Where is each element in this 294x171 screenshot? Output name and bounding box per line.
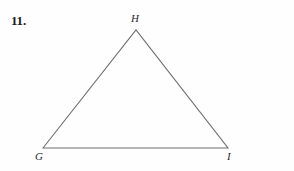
triangle-diagram	[0, 0, 294, 171]
worksheet-figure-page: 11. H G I	[0, 0, 294, 171]
vertex-label-i: I	[227, 150, 231, 162]
vertex-label-g: G	[35, 150, 43, 162]
vertex-label-h: H	[131, 12, 139, 24]
triangle-GHI-outline	[43, 30, 228, 148]
